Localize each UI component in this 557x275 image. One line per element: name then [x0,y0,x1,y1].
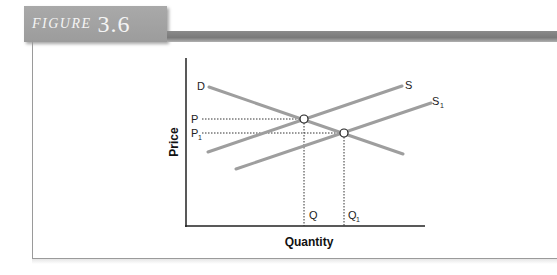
label-q1-sub: 1 [356,216,360,223]
supply-curve-shifted [236,103,431,169]
equilibrium-point [300,115,308,123]
label-p: P [191,113,198,125]
supply-demand-chart: D S S 1 P P 1 Q Q 1 Quantity Price [0,0,557,275]
x-axis-title: Quantity [285,235,334,249]
label-q: Q [309,209,318,221]
label-s1: S [432,95,439,107]
y-axis-title: Price [167,127,181,157]
label-p1-sub: 1 [198,134,202,141]
equilibrium-point-new [340,129,348,137]
label-s: S [405,79,412,91]
label-d: D [197,80,205,92]
label-s1-sub: 1 [440,102,444,109]
